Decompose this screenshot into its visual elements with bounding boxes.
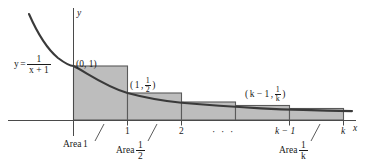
point-label-k-denominator: k [275, 94, 281, 103]
x-tick-label-k-minus-1: k − 1 [275, 127, 295, 137]
point-label-1-numerator: 1 [145, 77, 151, 85]
curve-equation-label: y = 1 x + 1 [14, 54, 51, 76]
curve-equation-fraction: 1 x + 1 [27, 54, 51, 76]
point-label-0-1: (0, 1) [76, 60, 97, 70]
point-label-1-fraction: 1 2 [145, 77, 151, 95]
point-label-k-x: k − 1 [250, 90, 270, 100]
leader-line-area-one-over-k [311, 124, 320, 141]
point-label-k-fraction: 1 k [275, 86, 281, 104]
area-label-one-half-fraction: 1 2 [136, 140, 145, 162]
area-label-one-over-k-denominator: k [299, 150, 308, 161]
point-label-1-close: ) [152, 81, 155, 91]
point-label-k-numerator: 1 [275, 86, 281, 94]
rectangle-area-1 [74, 66, 128, 120]
leader-line-area-one-half [148, 124, 157, 141]
point-label-k-open: ( [245, 90, 248, 100]
area-label-one-half-prefix: Area [116, 146, 134, 156]
x-tick-label-2: 2 [179, 127, 184, 137]
x-tick-label-k: k [341, 127, 345, 137]
curve-equation-denominator: x + 1 [27, 64, 51, 75]
area-label-1-prefix: Area [63, 140, 81, 150]
area-label-one-over-k-fraction: 1 k [299, 140, 308, 162]
leader-line-area-1 [95, 124, 104, 141]
area-label-one-over-k: Area 1 k [279, 140, 308, 162]
point-label-0-1-text: (0, 1) [76, 59, 97, 69]
point-label-1-one-half: ( 1 , 1 2 ) [130, 77, 155, 95]
point-label-k-minus-1: ( k − 1 , 1 k ) [245, 86, 285, 104]
area-label-one-half-denominator: 2 [136, 150, 145, 161]
y-axis-label: y [77, 9, 81, 19]
point-label-k-close: ) [282, 90, 285, 100]
area-label-one-half-numerator: 1 [136, 140, 145, 150]
x-axis-label: x [353, 124, 357, 134]
point-label-1-denominator: 2 [145, 85, 151, 94]
figure-canvas [0, 0, 374, 163]
curve-equation-numerator: 1 [27, 54, 51, 64]
point-label-k-comma: , [271, 90, 273, 100]
curve-equation-lhs: y [14, 60, 19, 70]
ellipsis-label: · · · [212, 127, 235, 137]
point-label-1-comma: , [141, 81, 143, 91]
rectangle-area-one-half [128, 93, 182, 120]
x-tick-label-1: 1 [125, 127, 130, 137]
x-tick-group [128, 121, 344, 126]
curve-equation-equals: = [20, 60, 25, 70]
area-label-one-over-k-prefix: Area [279, 146, 297, 156]
area-label-1-value: 1 [83, 140, 88, 150]
rectangle-group [74, 66, 344, 120]
area-label-1: Area 1 [63, 140, 88, 150]
riemann-sum-figure: y = 1 x + 1 y x (0, 1) ( 1 , 1 2 ) ( [0, 0, 374, 163]
area-label-one-half: Area 1 2 [116, 140, 145, 162]
point-label-1-open: ( [130, 81, 133, 91]
point-label-1-x: 1 [135, 81, 140, 91]
area-label-one-over-k-numerator: 1 [299, 140, 308, 150]
